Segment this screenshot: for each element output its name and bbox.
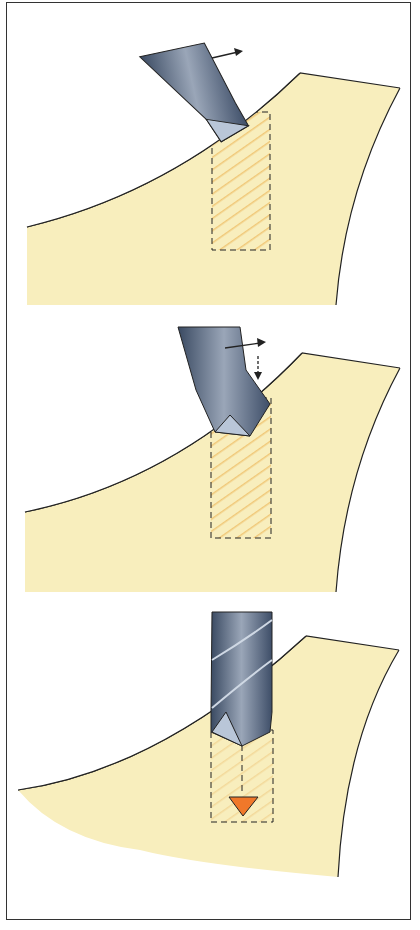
step-3-panel: 3 — [0, 600, 420, 910]
step-2-panel: 2 — [0, 300, 420, 610]
step-2-illustration — [0, 300, 420, 610]
step-1-panel: 1 — [0, 0, 420, 310]
drill-bit-icon — [211, 612, 272, 746]
step-1-illustration — [0, 0, 420, 310]
step-3-illustration — [0, 600, 420, 910]
